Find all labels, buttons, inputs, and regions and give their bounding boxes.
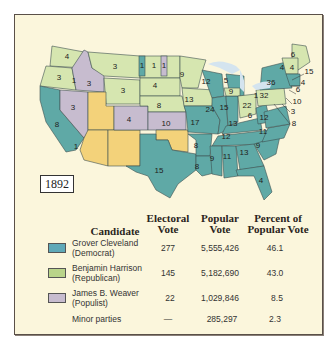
svg-text:1: 1 [74, 142, 79, 151]
popular-vote: 285,297 [192, 314, 252, 324]
header-popular-line2: Vote [195, 224, 245, 235]
electoral-vote: — [138, 314, 198, 324]
swatch-populist [48, 293, 66, 303]
svg-text:15: 15 [305, 67, 314, 76]
svg-text:13: 13 [185, 95, 194, 104]
svg-text:9: 9 [180, 70, 185, 79]
svg-text:4: 4 [280, 63, 285, 72]
svg-text:36: 36 [267, 78, 276, 87]
percent-vote: 8.5 [247, 293, 307, 303]
election-map-1892: 431 338 133 111 484 10913 1259 241522 11… [0, 0, 331, 200]
svg-text:1: 1 [162, 61, 167, 70]
svg-text:3: 3 [291, 107, 296, 116]
state-south-dakota [140, 78, 180, 96]
header-electoral-line2: Vote [140, 224, 196, 235]
svg-text:9: 9 [210, 154, 215, 163]
svg-text:12: 12 [222, 132, 231, 141]
svg-text:4: 4 [301, 78, 306, 87]
svg-text:3: 3 [87, 79, 92, 88]
svg-text:6: 6 [291, 50, 296, 59]
candidate-name-line1: Minor parties [72, 314, 121, 324]
svg-text:32: 32 [260, 91, 269, 100]
swatch-democrat [48, 243, 66, 253]
header-percent: Percent of Popular Vote [244, 213, 312, 235]
svg-text:24: 24 [206, 105, 215, 114]
svg-text:12: 12 [202, 77, 211, 86]
svg-text:3: 3 [121, 86, 126, 95]
svg-text:4: 4 [153, 81, 158, 90]
svg-text:15: 15 [220, 103, 229, 112]
swatch-republican [48, 268, 66, 278]
state-arkansas [188, 134, 212, 156]
header-popular-vote: Popular Vote [195, 213, 245, 235]
candidate-party: (Republican) [72, 273, 142, 283]
electoral-vote: 277 [138, 243, 198, 253]
candidate-name: Grover Cleveland (Democrat) [72, 238, 138, 258]
percent-vote: 2.3 [245, 314, 305, 324]
svg-text:1: 1 [72, 76, 77, 85]
svg-text:8: 8 [157, 101, 162, 110]
candidate-name: James B. Weaver (Populist) [72, 288, 139, 308]
svg-text:4: 4 [65, 52, 70, 61]
svg-text:11: 11 [259, 127, 268, 136]
svg-text:8: 8 [55, 120, 60, 129]
candidate-name-line1: Benjamin Harrison [72, 263, 142, 273]
popular-vote: 5,182,690 [190, 268, 250, 278]
svg-text:5: 5 [224, 76, 229, 85]
svg-text:6: 6 [296, 85, 301, 94]
svg-text:3: 3 [57, 73, 62, 82]
svg-text:1: 1 [152, 61, 157, 70]
territory-new-mexico [108, 130, 140, 166]
svg-text:4: 4 [259, 176, 264, 185]
percent-vote: 43.0 [245, 268, 305, 278]
candidate-name-line1: Grover Cleveland [72, 238, 138, 248]
svg-text:1: 1 [140, 61, 145, 70]
svg-text:6: 6 [248, 111, 253, 120]
header-percent-line2: Popular Vote [244, 224, 312, 235]
state-north-dakota [140, 56, 180, 78]
svg-text:9: 9 [256, 141, 261, 150]
svg-text:8: 8 [194, 141, 199, 150]
svg-text:12: 12 [260, 113, 269, 122]
svg-text:17: 17 [191, 118, 200, 127]
svg-text:11: 11 [223, 152, 232, 161]
svg-text:3: 3 [71, 103, 76, 112]
popular-vote: 5,555,426 [190, 243, 250, 253]
svg-text:4: 4 [290, 63, 295, 72]
candidate-party: (Democrat) [72, 248, 138, 258]
svg-text:15: 15 [155, 166, 164, 175]
candidate-name: Minor parties [72, 314, 121, 324]
svg-text:3: 3 [113, 62, 118, 71]
svg-text:1: 1 [254, 91, 259, 100]
popular-vote: 1,029,846 [190, 293, 250, 303]
svg-text:4: 4 [127, 115, 132, 124]
state-florida [236, 166, 272, 200]
year-label: 1892 [40, 175, 74, 193]
candidate-name-line1: James B. Weaver [72, 288, 139, 298]
svg-text:8: 8 [292, 119, 297, 128]
svg-text:9: 9 [229, 87, 234, 96]
svg-text:13: 13 [240, 148, 249, 157]
candidate-name: Benjamin Harrison (Republican) [72, 263, 142, 283]
header-electoral-vote: Electoral Vote [140, 213, 196, 235]
svg-text:10: 10 [162, 119, 171, 128]
electoral-vote: 145 [138, 268, 198, 278]
state-alabama [222, 146, 238, 178]
candidate-party: (Populist) [72, 298, 139, 308]
svg-text:13: 13 [229, 119, 238, 128]
svg-text:22: 22 [243, 101, 252, 110]
percent-vote: 46.1 [245, 243, 305, 253]
svg-text:10: 10 [293, 97, 302, 106]
svg-text:8: 8 [195, 162, 200, 171]
